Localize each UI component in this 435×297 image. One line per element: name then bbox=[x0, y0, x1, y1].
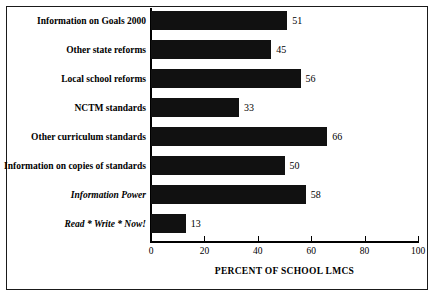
bar-band: 58 bbox=[151, 182, 418, 211]
bar-value-label: 50 bbox=[290, 157, 300, 174]
bar-value-label: 33 bbox=[244, 99, 254, 116]
bar bbox=[151, 69, 301, 88]
bar bbox=[151, 214, 186, 233]
x-axis-tick-label: 60 bbox=[291, 245, 331, 258]
x-axis-tick bbox=[151, 236, 152, 242]
category-label: Other curriculum standards bbox=[0, 125, 146, 150]
bar-value-label: 58 bbox=[311, 186, 321, 203]
bar-band: 33 bbox=[151, 95, 418, 124]
bar-band: 50 bbox=[151, 153, 418, 182]
x-axis-tick bbox=[258, 236, 259, 242]
x-axis-tick bbox=[311, 236, 312, 242]
bar bbox=[151, 127, 327, 146]
category-label: Information Power bbox=[0, 183, 146, 208]
bar-value-label: 45 bbox=[276, 41, 286, 58]
bar bbox=[151, 156, 285, 175]
bar bbox=[151, 185, 306, 204]
bar bbox=[151, 11, 287, 30]
x-axis-tick-label: 40 bbox=[238, 245, 278, 258]
bar-band: 45 bbox=[151, 37, 418, 66]
bar-band: 51 bbox=[151, 8, 418, 37]
category-label: Information on copies of standards bbox=[0, 154, 146, 179]
category-label: Other state reforms bbox=[0, 38, 146, 63]
category-label: Local school reforms bbox=[0, 67, 146, 92]
bar-value-label: 66 bbox=[332, 128, 342, 145]
bar-band: 56 bbox=[151, 66, 418, 95]
x-axis-tick bbox=[204, 236, 205, 242]
category-label: NCTM standards bbox=[0, 96, 146, 121]
bar bbox=[151, 98, 239, 117]
bar-band: 13 bbox=[151, 211, 418, 240]
x-axis-title: PERCENT OF SCHOOL LMCS bbox=[151, 266, 418, 276]
x-axis-tick-label: 0 bbox=[131, 245, 171, 258]
bar-band: 66 bbox=[151, 124, 418, 153]
category-label: Read * Write * Now! bbox=[0, 212, 146, 237]
x-axis-tick-label: 100 bbox=[398, 245, 435, 258]
category-label: Information on Goals 2000 bbox=[0, 9, 146, 34]
x-axis-tick bbox=[365, 236, 366, 242]
x-axis-line bbox=[150, 241, 419, 243]
x-axis-tick bbox=[418, 236, 419, 242]
x-axis-tick-label: 80 bbox=[345, 245, 385, 258]
bar-value-label: 56 bbox=[306, 70, 316, 87]
bar-value-label: 51 bbox=[292, 12, 302, 29]
bar bbox=[151, 40, 271, 59]
bar-chart-figure: 5145563366505813 Information on Goals 20… bbox=[0, 0, 435, 297]
x-axis-tick-label: 20 bbox=[184, 245, 224, 258]
bar-value-label: 13 bbox=[191, 215, 201, 232]
